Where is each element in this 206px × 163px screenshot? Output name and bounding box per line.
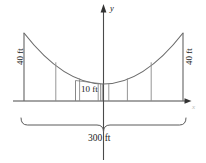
bridge-diagram-figure: 40 ft 40 ft 10 ft 300 ft y x: [0, 0, 206, 163]
y-axis-label: y: [110, 4, 114, 13]
center-clearance-label: 10 ft: [81, 85, 98, 94]
y-axis-arrowhead: [101, 4, 107, 13]
right-tower-height-label: 40 ft: [185, 48, 194, 65]
x-axis-label: x: [192, 104, 195, 111]
x-axis-arrowhead: [185, 98, 192, 103]
span-length-label: 300 ft: [88, 134, 110, 144]
left-tower-height-label: 40 ft: [16, 48, 25, 65]
